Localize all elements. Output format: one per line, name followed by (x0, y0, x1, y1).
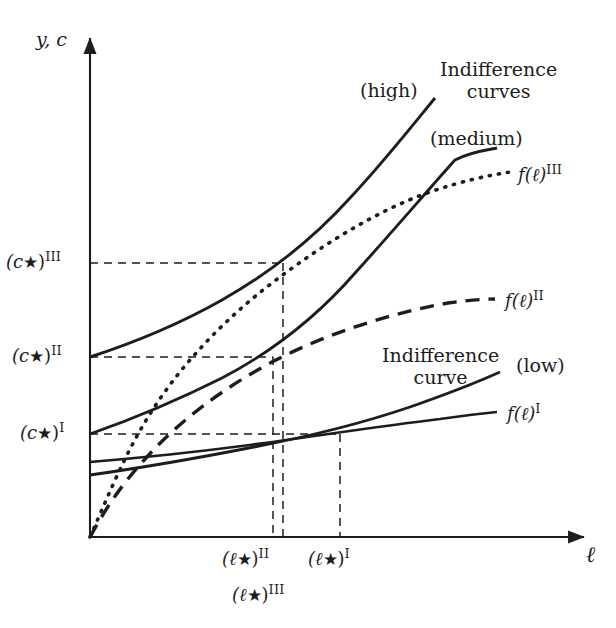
f-three-main: f(ℓ) (518, 164, 546, 185)
y-tick-c-two-sup: II (51, 343, 62, 358)
x-tick-l-one-main: (ℓ (308, 548, 323, 569)
x-tick-l-one-close: ) (338, 548, 345, 569)
indifference-curve-line-two: curve (382, 366, 499, 388)
x-tick-l-three-star: ★ (247, 586, 262, 605)
indifference-curve-line-one: Indifference (382, 344, 499, 366)
f-two-sup: II (533, 288, 544, 303)
x-axis-label: ℓ (586, 543, 595, 567)
y-tick-c-two-star: ★ (29, 347, 44, 366)
y-tick-label-c-one: (c★)I (20, 421, 64, 443)
indifference-curves-line-one: Indifference (440, 58, 557, 80)
x-tick-l-three-main: (ℓ (232, 584, 247, 605)
annotation-indifference-curves: Indifference curves (440, 58, 557, 103)
x-tick-label-l-one: (ℓ★)I (308, 547, 350, 569)
x-tick-l-three-close: ) (262, 584, 269, 605)
y-tick-c-three-sup: III (45, 249, 61, 264)
y-tick-label-c-two: (c★)II (12, 344, 62, 366)
x-tick-l-two-sup: II (259, 546, 270, 561)
x-tick-label-l-three: (ℓ★)III (232, 583, 285, 605)
x-tick-l-one-sup: I (345, 546, 350, 561)
f-three-sup: III (546, 162, 562, 177)
f-one-sup: I (535, 401, 540, 416)
economics-figure: y, c ℓ (c★)III (c★)II (c★)I (ℓ★)II (ℓ★)I… (0, 0, 616, 628)
label-f-one: f(ℓ)I (507, 402, 541, 423)
x-tick-l-three-sup: III (269, 582, 285, 597)
label-f-three: f(ℓ)III (518, 163, 562, 184)
x-tick-l-one-star: ★ (323, 550, 338, 569)
y-tick-c-three-star: ★ (23, 253, 38, 272)
x-tick-l-two-close: ) (252, 548, 259, 569)
x-tick-l-two-star: ★ (237, 550, 252, 569)
f-two-main: f(ℓ) (505, 290, 533, 311)
y-tick-c-one-star: ★ (37, 424, 52, 443)
annotation-indifference-curve: Indifference curve (382, 344, 499, 389)
y-tick-c-three-main: (c (6, 251, 23, 272)
annotation-high: (high) (360, 80, 418, 101)
label-f-two: f(ℓ)II (505, 289, 544, 310)
y-tick-c-one-sup: I (59, 420, 64, 435)
x-tick-label-l-two: (ℓ★)II (222, 547, 269, 569)
y-tick-c-two-main: (c (12, 345, 29, 366)
y-tick-c-one-main: (c (20, 422, 37, 443)
indifference-curves-line-two: curves (440, 80, 557, 102)
f-one-main: f(ℓ) (507, 403, 535, 424)
y-tick-label-c-three: (c★)III (6, 250, 61, 272)
x-tick-l-two-main: (ℓ (222, 548, 237, 569)
annotation-low: (low) (516, 355, 565, 376)
y-axis-label: y, c (36, 29, 67, 50)
annotation-medium: (medium) (430, 128, 523, 149)
